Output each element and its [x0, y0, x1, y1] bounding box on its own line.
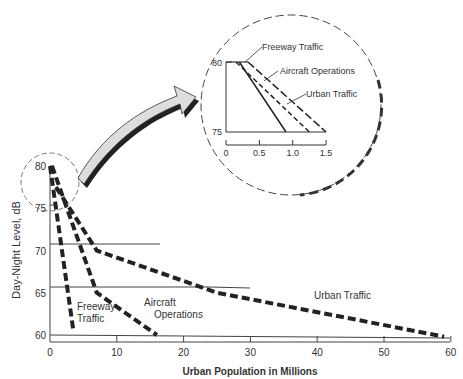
label-freeway-2: Traffic — [77, 313, 104, 324]
inset-ytick-80: 80 — [212, 58, 222, 68]
inset-label-freeway: Freeway Traffic — [262, 42, 324, 52]
arrow-icon — [78, 86, 199, 188]
chart: 0102030405060 6065707580 Urban Populatio… — [0, 0, 463, 379]
inset-x-tick-label: 1.5 — [320, 148, 333, 158]
y-axis-label: Day-Night Level, dB — [10, 201, 22, 299]
inset-x-tick-label: 0.5 — [253, 148, 266, 158]
label-aircraft-1: Aircraft — [144, 297, 176, 308]
x-tick-label: 30 — [245, 347, 257, 358]
inset-label-aircraft: Aircraft Operations — [280, 66, 356, 76]
y-tick-label: 70 — [35, 246, 47, 257]
x-tick-label: 0 — [47, 347, 53, 358]
y-tick-label: 80 — [35, 161, 47, 172]
x-axis-label: Urban Population in Millions — [183, 366, 318, 377]
inset-x-tick-label: 0 — [223, 148, 228, 158]
label-aircraft-2: Operations — [154, 309, 203, 320]
x-tick-label: 60 — [445, 347, 457, 358]
y-tick-label: 65 — [35, 288, 47, 299]
inset-chart: 00.51.01.5 80 75 Freeway Traffic Aircraf… — [212, 42, 358, 158]
inset-label-urban: Urban Traffic — [306, 89, 358, 99]
x-tick-label: 50 — [378, 347, 390, 358]
series-urban-traffic — [56, 187, 444, 337]
label-freeway-1: Freeway — [77, 301, 115, 312]
y-tick-label: 60 — [35, 330, 47, 341]
label-urban: Urban Traffic — [314, 290, 371, 301]
x-tick-label: 10 — [111, 347, 123, 358]
inset-x-tick-label: 1.0 — [286, 148, 299, 158]
y-tick-label: 75 — [35, 203, 47, 214]
inset-ytick-75: 75 — [212, 127, 222, 137]
x-tick-label: 20 — [178, 347, 190, 358]
x-tick-label: 40 — [312, 347, 324, 358]
